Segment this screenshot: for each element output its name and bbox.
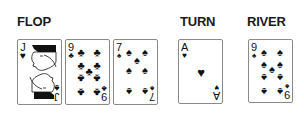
spade-icon: ♠: [269, 64, 275, 75]
club-icon: ♣: [77, 47, 84, 58]
spade-icon: ♠: [277, 59, 283, 70]
turn-card-ace-hearts: A ♥ ♥ A ♥: [178, 39, 223, 104]
club-icon: ♣: [93, 60, 100, 71]
card-rank: 9: [284, 90, 290, 100]
card-corner-top: 9 ♠: [251, 42, 257, 60]
spade-icon: ♠: [126, 47, 132, 58]
card-corner-bottom: 9 ♣: [101, 84, 107, 102]
spade-icon: ♠: [54, 84, 59, 92]
card-corner-bottom: 7 ♠: [149, 84, 155, 102]
club-icon: ♣: [93, 47, 100, 58]
card-rank: A: [213, 91, 220, 101]
card-rank: 7: [149, 92, 155, 102]
spade-icon: ♠: [142, 47, 148, 58]
card-corner-bottom: A ♥: [213, 83, 220, 101]
club-icon: ♣: [77, 73, 84, 84]
heart-icon: ♥: [20, 52, 26, 60]
card-corner-top: 9 ♣: [68, 42, 74, 60]
flop-card-2-nine-clubs: 9 ♣ ♣ ♣ ♣ ♣ ♣ ♣ ♣ ♣ ♣ 9 ♣: [65, 39, 110, 105]
flop-card-3-seven-spades: 7 ♠ ♠ ♠ ♠ ♠ ♠ ♠ ♠ 7 ♠: [113, 39, 158, 105]
turn-label: TURN: [180, 15, 215, 29]
club-icon: ♣: [77, 60, 84, 71]
spade-icon: ♠: [285, 82, 289, 90]
heart-icon: ♥: [214, 83, 219, 91]
spade-icon: ♠: [277, 72, 283, 83]
club-icon: ♣: [101, 84, 106, 92]
heart-icon: ♥: [182, 52, 187, 60]
spade-icon: ♠: [134, 55, 140, 66]
club-icon: ♣: [93, 73, 100, 84]
spade-icon: ♠: [277, 47, 283, 58]
spade-icon: ♠: [261, 47, 267, 58]
card-corner-bottom: J ♠: [54, 84, 60, 102]
spade-icon: ♠: [261, 72, 267, 83]
spade-icon: ♠: [126, 86, 132, 97]
river-label: RIVER: [247, 15, 286, 29]
spade-icon: ♠: [117, 52, 121, 60]
club-icon: ♣: [85, 66, 92, 77]
spade-icon: ♠: [252, 52, 256, 60]
spade-icon: ♠: [142, 65, 148, 76]
spade-icon: ♠: [261, 59, 267, 70]
card-corner-bottom: 9 ♠: [284, 82, 290, 100]
card-corner-top: J ♥: [20, 42, 26, 60]
spade-icon: ♠: [277, 86, 283, 97]
spade-icon: ♠: [142, 86, 148, 97]
flop-card-1-jack: J ♥ J ♠: [17, 39, 62, 105]
club-icon: ♣: [68, 52, 73, 60]
card-corner-top: 7 ♠: [116, 42, 122, 60]
spade-icon: ♠: [261, 86, 267, 97]
heart-icon: ♥: [197, 67, 205, 78]
river-card-nine-spades: 9 ♠ ♠ ♠ ♠ ♠ ♠ ♠ ♠ ♠ ♠ 9 ♠: [248, 39, 293, 103]
spade-icon: ♠: [126, 65, 132, 76]
club-icon: ♣: [77, 87, 84, 98]
card-rank: 9: [101, 92, 107, 102]
card-corner-top: A ♥: [181, 42, 188, 60]
spade-icon: ♠: [150, 84, 154, 92]
flop-label: FLOP: [17, 15, 51, 29]
club-icon: ♣: [93, 87, 100, 98]
